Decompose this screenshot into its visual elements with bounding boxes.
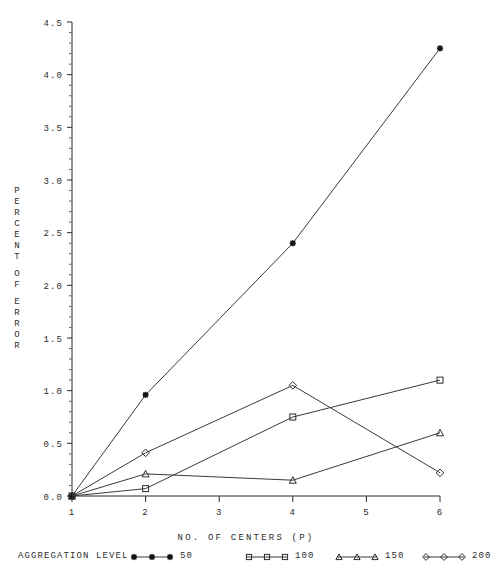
y-tick-label: 1.5: [43, 335, 63, 345]
y-tick-label: 2.0: [43, 282, 63, 292]
legend-title: AGGREGATION LEVEL: [18, 551, 129, 561]
legend-label: 50: [180, 551, 193, 561]
y-tick-label: 3.0: [43, 177, 63, 187]
x-tick-label: 2: [142, 508, 149, 518]
y-tick-label: 4.5: [43, 19, 63, 29]
y-tick-label: 4.0: [43, 71, 63, 81]
y-tick-label: 3.5: [43, 124, 63, 134]
y-axis-title-char: E: [9, 297, 25, 308]
y-axis-title-char: E: [9, 197, 25, 208]
chart-legend: AGGREGATION LEVEL 50100150200: [0, 549, 461, 569]
y-tick-label: 2.5: [43, 229, 63, 239]
legend-marker-square-icon: [243, 551, 291, 563]
y-tick-label: 0.5: [43, 440, 63, 450]
y-axis-title-char: E: [9, 230, 25, 241]
legend-marker-diamond-icon: [420, 551, 468, 563]
x-tick-label: 1: [69, 508, 76, 518]
y-axis-title-char: N: [9, 241, 25, 252]
y-axis-title-char: T: [9, 252, 25, 263]
legend-label: 100: [295, 551, 315, 561]
y-tick-label: 0.0: [43, 493, 63, 503]
legend-label: 150: [385, 551, 405, 561]
series-200: [68, 382, 444, 500]
data-point-marker: [142, 392, 148, 398]
x-tick-label: 4: [290, 508, 297, 518]
series-150: [69, 429, 444, 499]
legend-marker-filled-star-icon: [128, 551, 176, 563]
series-100: [69, 377, 443, 499]
series-50: [69, 45, 443, 499]
y-axis-title-char: O: [9, 330, 25, 341]
data-point-marker: [290, 240, 296, 246]
x-axis-title: NO. OF CENTERS (P): [178, 533, 315, 543]
data-point-marker: [437, 45, 443, 51]
legend-marker-triangle-icon: [333, 551, 381, 563]
y-axis-title-char: R: [9, 341, 25, 352]
y-axis-title-char: R: [9, 308, 25, 319]
legend-label: 200: [472, 551, 492, 561]
y-axis-title: PERCENTOFERROR: [9, 186, 25, 352]
x-tick-label: 6: [437, 508, 444, 518]
x-tick-label: 5: [363, 508, 370, 518]
y-axis-title-char: C: [9, 219, 25, 230]
y-axis-title-char: F: [9, 280, 25, 291]
x-tick-label: 3: [216, 508, 223, 518]
y-axis-title-char: R: [9, 319, 25, 330]
y-axis-title-char: P: [9, 186, 25, 197]
data-point-marker: [437, 429, 444, 436]
data-point-marker: [436, 469, 444, 477]
y-axis: 0.00.51.01.52.02.53.03.54.04.5: [43, 19, 72, 503]
y-axis-title-char: O: [9, 269, 25, 280]
data-series-group: [68, 45, 444, 500]
y-axis-title-char: R: [9, 208, 25, 219]
y-tick-label: 1.0: [43, 387, 63, 397]
x-axis: 123456: [69, 496, 444, 518]
